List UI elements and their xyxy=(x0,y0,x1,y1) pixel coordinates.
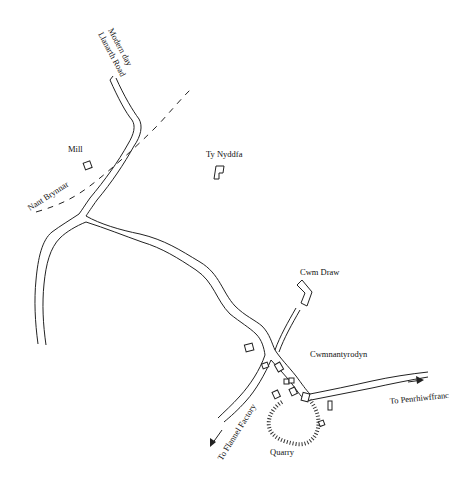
label-nant-brynnar: Nant Brynnar xyxy=(26,179,71,213)
building-quarry-east xyxy=(318,420,324,426)
road-llanarth-north xyxy=(79,76,141,216)
label-cwm-draw: Cwm Draw xyxy=(300,267,340,277)
building-mill xyxy=(83,161,92,170)
building-cwmnantyrodyn-4 xyxy=(289,387,297,396)
building-cwmnantyrodyn-5 xyxy=(272,390,280,399)
building-cwm-draw xyxy=(297,280,312,306)
building-cwmnantyrodyn-3 xyxy=(289,378,294,383)
arrow-to-flannel-factory xyxy=(210,430,222,447)
road-main-to-cwmnantyrodyn xyxy=(86,216,275,355)
building-cwmnantyrodyn-2 xyxy=(284,379,289,384)
label-cwmnantyrodyn: Cwmnantyrodyn xyxy=(310,349,368,359)
road-to-cwm-draw xyxy=(275,308,300,352)
building-roadside xyxy=(328,401,332,410)
label-quarry: Quarry xyxy=(270,447,295,457)
map-canvas: Modern day Llanarth Road Mill Nant Brynn… xyxy=(0,0,471,490)
label-to-penrhiwffranc: To Penrhiwffranc xyxy=(389,390,449,406)
building-cwmnantyrodyn-1 xyxy=(274,362,283,372)
building-cwmnantyrodyn-6 xyxy=(301,392,310,402)
label-ty-nyddfa: Ty Nyddfa xyxy=(206,149,243,159)
building-ty-nyddfa xyxy=(214,166,224,179)
building-junction-west xyxy=(244,343,254,352)
road-western-branch xyxy=(35,214,86,345)
label-mill: Mill xyxy=(68,144,83,154)
quarry-outline xyxy=(269,400,319,444)
